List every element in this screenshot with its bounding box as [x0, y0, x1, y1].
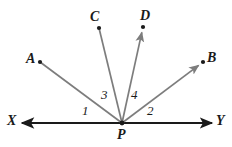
angle-label-4: 4 — [131, 88, 138, 101]
ray-pc — [97, 26, 122, 123]
point-label-x: X — [7, 114, 16, 128]
point-label-y: Y — [216, 114, 225, 128]
diagram-canvas — [0, 0, 232, 147]
endpoint-dot-a — [38, 60, 42, 64]
angle-label-3: 3 — [101, 88, 108, 101]
endpoint-dot-b — [201, 60, 205, 64]
point-label-d: D — [140, 9, 150, 23]
angle-label-2: 2 — [147, 104, 154, 117]
endpoint-dot-d — [141, 25, 145, 29]
point-label-a: A — [26, 52, 35, 66]
angle-label-1: 1 — [82, 104, 89, 117]
point-label-p: P — [117, 128, 126, 142]
geometry-diagram: A B C D P X Y 1 3 4 2 — [0, 0, 232, 147]
point-label-b: B — [207, 51, 216, 65]
endpoint-dot-c — [97, 26, 101, 30]
vertex-dot-p — [120, 121, 125, 126]
point-label-c: C — [90, 10, 99, 24]
